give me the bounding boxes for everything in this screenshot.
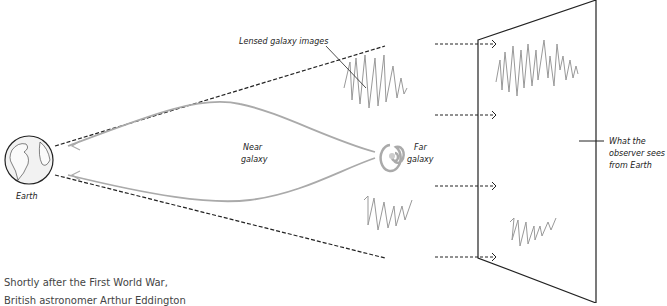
observer-label-3: from Earth	[609, 160, 652, 171]
near-galaxy-label-2: galaxy	[241, 154, 268, 165]
far-galaxy-spiral-icon	[381, 145, 404, 171]
lensed-image-lower	[364, 196, 412, 230]
near-galaxy-label-1: Near	[243, 142, 262, 153]
observed-image-lower	[510, 218, 556, 246]
lower-bent-path	[68, 158, 375, 201]
earth-globe-icon	[5, 136, 53, 184]
label-pointer-line	[326, 46, 366, 88]
observed-image-upper	[496, 40, 578, 96]
earth-label: Earth	[16, 191, 37, 202]
lower-light-ray	[55, 175, 385, 258]
observer-label-2: observer sees	[609, 148, 665, 159]
upper-light-ray	[55, 46, 385, 146]
observer-label-1: What the	[609, 136, 646, 147]
lensed-image-upper	[344, 55, 407, 108]
far-galaxy-label-2: galaxy	[407, 154, 434, 165]
caption-line-1: Shortly after the First World War,	[4, 277, 168, 288]
lensed-images-label: Lensed galaxy images	[239, 36, 328, 47]
upper-bent-path	[68, 102, 375, 152]
far-galaxy-label-1: Far	[414, 142, 427, 153]
caption-line-2: British astronomer Arthur Eddington	[4, 295, 186, 306]
projection-arrows	[435, 40, 496, 261]
